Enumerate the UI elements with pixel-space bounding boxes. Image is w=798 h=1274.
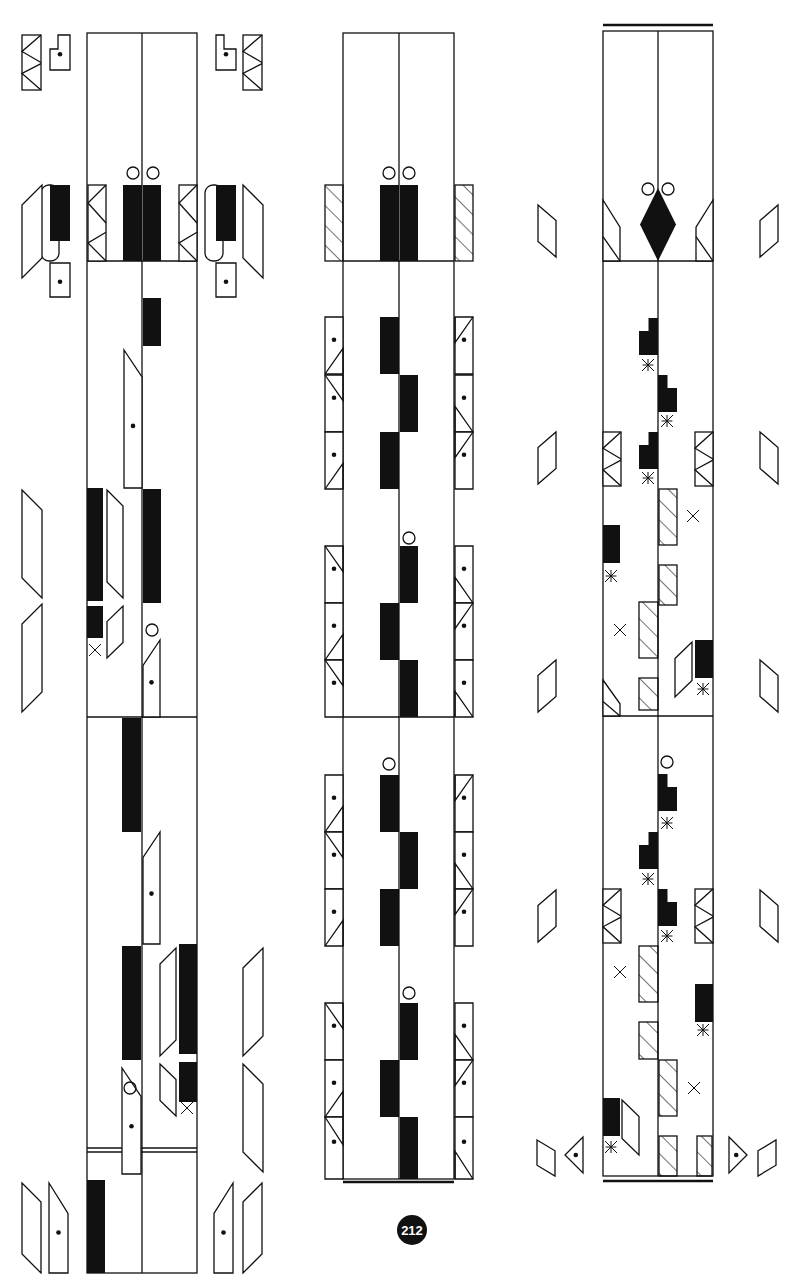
stepped-block (658, 774, 677, 811)
parallelogram-outline (22, 1183, 41, 1273)
dot-marker (58, 279, 63, 284)
dot-box (325, 660, 343, 717)
solid-block (603, 525, 620, 563)
solid-block (695, 984, 713, 1022)
parallelogram-outline (760, 660, 778, 712)
solid-block (400, 1003, 418, 1060)
solid-block (87, 606, 103, 638)
hatched-block (697, 1136, 712, 1176)
dot-box (325, 432, 343, 489)
hatched-block (325, 185, 343, 261)
dot-marker (462, 624, 467, 629)
circle-icon (662, 183, 674, 195)
dot-box (49, 1183, 68, 1273)
page-number-badge: 212 (397, 1215, 427, 1245)
diamond-block (640, 188, 676, 261)
parallelogram-outline (538, 205, 556, 257)
parallelogram-outline (538, 660, 556, 712)
dot-marker (221, 1230, 226, 1235)
dot-marker (462, 567, 467, 572)
dot-marker (332, 396, 337, 401)
dot-marker (56, 1230, 61, 1235)
hatched-block (659, 489, 677, 545)
dot-marker (332, 681, 337, 686)
solid-block (143, 489, 161, 603)
solid-block (400, 832, 418, 889)
dot-box (325, 775, 343, 832)
circle-icon (403, 987, 415, 999)
parallelogram-outline (22, 490, 42, 598)
solid-block (123, 185, 142, 261)
parallelogram-outline (160, 1064, 176, 1116)
solid-block (380, 603, 399, 660)
solid-block (380, 185, 399, 261)
hatched-block (639, 678, 658, 710)
dot-box (325, 1060, 343, 1117)
dot-box (455, 1003, 473, 1060)
circle-icon (146, 624, 158, 636)
dot-box (325, 546, 343, 603)
dot-marker (332, 567, 337, 572)
dot-marker (129, 1124, 134, 1129)
dot-box (455, 1060, 473, 1117)
pattern-diagram (0, 0, 798, 1274)
parallelogram-outline (760, 205, 778, 257)
stepped-block (639, 432, 658, 469)
dot-box (325, 375, 343, 432)
dot-box (143, 640, 160, 717)
solid-block (50, 185, 70, 241)
solid-block (87, 1180, 105, 1273)
parallelogram-outline (22, 185, 42, 278)
parallelogram-outline (160, 948, 176, 1056)
solid-block (400, 185, 418, 261)
dot-marker (224, 279, 229, 284)
solid-block (380, 889, 399, 946)
dot-box (455, 375, 473, 432)
solid-block (179, 1062, 197, 1102)
dot-box (124, 350, 142, 488)
solid-block (122, 946, 141, 1060)
dot-marker (332, 453, 337, 458)
dot-box (455, 832, 473, 889)
circle-icon (127, 167, 139, 179)
bowtie-box (88, 185, 106, 261)
solid-block (400, 546, 418, 603)
dot-box (214, 1183, 233, 1273)
parallelogram-outline (243, 185, 263, 278)
dot-box (325, 1003, 343, 1060)
dot-marker (462, 453, 467, 458)
hatched-block (659, 565, 677, 605)
hatched-block (639, 602, 658, 658)
stepped-block (658, 889, 677, 926)
solid-block (400, 1117, 418, 1179)
dot-box (455, 775, 473, 832)
dot-marker (131, 424, 136, 429)
circle-icon (383, 167, 395, 179)
dot-marker (149, 680, 154, 685)
solid-block (122, 718, 141, 832)
dot-marker (462, 853, 467, 858)
parallelogram-outline (107, 490, 123, 598)
stepped-block (639, 832, 658, 869)
dot-marker (462, 396, 467, 401)
solid-block (143, 185, 161, 261)
corner-wedge (696, 200, 713, 261)
solid-block (380, 1060, 399, 1117)
solid-block (87, 488, 103, 601)
circle-icon (403, 167, 415, 179)
dot-box (455, 317, 473, 374)
dot-marker (58, 52, 63, 57)
dot-marker (734, 1153, 739, 1158)
dot-box (455, 889, 473, 946)
parallelogram-outline (538, 890, 556, 942)
solid-block (179, 944, 197, 1054)
solid-block (400, 375, 418, 432)
dot-marker (462, 338, 467, 343)
solid-block (380, 317, 399, 374)
bowtie-box (179, 185, 197, 261)
stepped-block (658, 375, 677, 412)
dot-marker (462, 910, 467, 915)
circle-icon (147, 167, 159, 179)
parallelogram-outline (760, 432, 778, 484)
parallelogram-outline (760, 890, 778, 942)
